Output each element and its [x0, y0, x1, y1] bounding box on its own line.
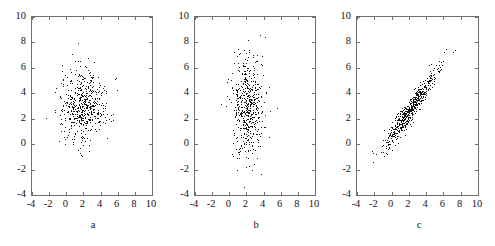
x-tick-bottom — [66, 192, 67, 195]
x-tick-bottom — [392, 192, 393, 195]
y-tick-left — [357, 42, 360, 43]
x-tick-bottom — [118, 192, 119, 195]
y-tick-label: 4 — [325, 87, 351, 98]
x-tick-top — [392, 17, 393, 20]
x-tick-top — [212, 17, 213, 20]
y-tick-right — [312, 119, 315, 120]
x-tick-bottom — [443, 192, 444, 195]
y-tick-right — [312, 17, 315, 18]
x-tick-bottom — [135, 192, 136, 195]
plot-area-c — [356, 16, 479, 196]
x-tick-bottom — [315, 192, 316, 195]
x-tick-top — [461, 17, 462, 20]
y-tick-right — [475, 93, 478, 94]
panel-b: b -4-20246810-4-20246810 — [163, 0, 328, 246]
x-tick-top — [49, 17, 50, 20]
y-tick-left — [195, 170, 198, 171]
scatter-points-c — [357, 17, 478, 195]
y-tick-right — [312, 68, 315, 69]
y-tick-label: 8 — [163, 36, 189, 47]
y-tick-label: -2 — [325, 164, 351, 175]
x-tick-bottom — [281, 192, 282, 195]
y-tick-label: 0 — [0, 138, 26, 149]
y-tick-left — [32, 68, 35, 69]
plot-area-a — [31, 16, 153, 196]
x-tick-top — [264, 17, 265, 20]
y-tick-left — [357, 93, 360, 94]
x-tick-bottom — [83, 192, 84, 195]
y-tick-right — [149, 93, 152, 94]
y-tick-label: 0 — [325, 138, 351, 149]
y-tick-right — [312, 144, 315, 145]
x-tick-top — [374, 17, 375, 20]
y-tick-label: 8 — [0, 36, 26, 47]
y-tick-label: 2 — [0, 113, 26, 124]
x-tick-bottom — [246, 192, 247, 195]
x-tick-top — [478, 17, 479, 20]
y-tick-right — [149, 17, 152, 18]
y-tick-label: 4 — [0, 87, 26, 98]
y-tick-left — [357, 170, 360, 171]
y-tick-left — [195, 42, 198, 43]
x-tick-top — [443, 17, 444, 20]
x-tick-top — [101, 17, 102, 20]
y-tick-label: 4 — [163, 87, 189, 98]
x-tick-top — [426, 17, 427, 20]
x-tick-top — [298, 17, 299, 20]
plot-area-b — [194, 16, 316, 196]
y-tick-label: 2 — [163, 113, 189, 124]
x-tick-bottom — [152, 192, 153, 195]
scatter-points-a — [32, 17, 152, 195]
y-tick-label: 8 — [325, 36, 351, 47]
y-tick-right — [149, 195, 152, 196]
x-tick-label: 10 — [139, 199, 163, 210]
y-tick-left — [32, 42, 35, 43]
x-tick-top — [315, 17, 316, 20]
y-tick-left — [195, 119, 198, 120]
scatter-plot-figure: a -4-20246810-4-20246810 b -4-20246810-4… — [0, 0, 495, 246]
x-tick-bottom — [101, 192, 102, 195]
x-axis-label-b: b — [244, 219, 268, 230]
y-tick-left — [32, 119, 35, 120]
y-tick-label: 6 — [163, 62, 189, 73]
y-tick-right — [475, 68, 478, 69]
y-tick-left — [32, 170, 35, 171]
x-tick-bottom — [374, 192, 375, 195]
x-tick-bottom — [426, 192, 427, 195]
x-tick-top — [281, 17, 282, 20]
y-tick-left — [195, 93, 198, 94]
y-tick-left — [357, 144, 360, 145]
x-tick-label: 10 — [302, 199, 326, 210]
y-tick-right — [149, 119, 152, 120]
y-tick-left — [357, 68, 360, 69]
y-tick-right — [475, 42, 478, 43]
x-tick-top — [246, 17, 247, 20]
y-tick-right — [312, 93, 315, 94]
x-tick-top — [66, 17, 67, 20]
y-tick-label: -4 — [163, 189, 189, 200]
x-axis-label-c: c — [407, 219, 431, 230]
y-tick-left — [195, 195, 198, 196]
x-tick-bottom — [49, 192, 50, 195]
y-tick-label: 2 — [325, 113, 351, 124]
x-tick-bottom — [478, 192, 479, 195]
y-tick-left — [32, 144, 35, 145]
x-tick-bottom — [409, 192, 410, 195]
x-tick-top — [409, 17, 410, 20]
x-tick-bottom — [298, 192, 299, 195]
y-tick-right — [475, 17, 478, 18]
y-tick-right — [149, 170, 152, 171]
y-tick-label: -2 — [163, 164, 189, 175]
y-tick-left — [357, 119, 360, 120]
x-tick-top — [83, 17, 84, 20]
y-tick-label: 6 — [325, 62, 351, 73]
x-tick-top — [135, 17, 136, 20]
y-tick-label: -4 — [0, 189, 26, 200]
y-tick-label: 10 — [325, 11, 351, 22]
x-tick-bottom — [212, 192, 213, 195]
y-tick-right — [312, 42, 315, 43]
y-tick-label: 10 — [0, 11, 26, 22]
x-tick-top — [118, 17, 119, 20]
y-tick-left — [357, 195, 360, 196]
y-tick-label: -2 — [0, 164, 26, 175]
